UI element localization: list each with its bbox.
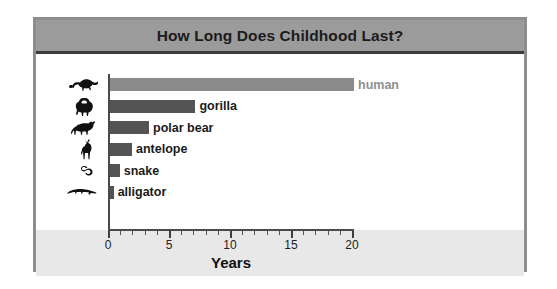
bar-label-human: human: [358, 78, 399, 92]
bar-group: human gorilla polar bear antelope snake …: [110, 74, 518, 203]
tick-12: [254, 231, 255, 235]
tick-16: [303, 231, 304, 235]
tick-4: [157, 231, 158, 235]
tick-19: [340, 231, 341, 235]
polar-bear-icon: [56, 117, 101, 139]
bar-label-gorilla: gorilla: [199, 99, 237, 113]
bar-label-antelope: antelope: [136, 142, 187, 156]
tick-10: [230, 231, 232, 238]
tick-11: [242, 231, 243, 235]
antelope-icon: [56, 139, 101, 161]
animal-icon-column: [56, 74, 101, 203]
tick-7: [193, 231, 194, 235]
tick-label-5: 5: [166, 238, 173, 252]
bar-human: [110, 78, 354, 91]
tick-18: [328, 231, 329, 235]
bar-polar-bear: [110, 121, 149, 134]
tick-6: [181, 231, 182, 235]
chart-title-bar: How Long Does Childhood Last?: [36, 20, 524, 54]
tick-14: [279, 231, 280, 235]
tick-label-0: 0: [105, 238, 112, 252]
tick-label-20: 20: [345, 238, 358, 252]
bar-label-polar-bear: polar bear: [153, 121, 213, 135]
tick-1: [120, 231, 121, 235]
gorilla-icon: [56, 96, 101, 118]
alligator-icon: [56, 182, 101, 204]
bar-label-snake: snake: [124, 164, 159, 178]
plot-area: human gorilla polar bear antelope snake …: [36, 54, 524, 269]
tick-17: [315, 231, 316, 235]
tick-label-15: 15: [284, 238, 297, 252]
tick-5: [169, 231, 171, 238]
bar-gorilla: [110, 100, 195, 113]
page-title: How Long Does Childhood Last?: [157, 27, 404, 45]
human-crawling-icon: [56, 74, 101, 96]
chart-frame: How Long Does Childhood Last?: [33, 17, 527, 272]
tick-20: [352, 231, 354, 238]
snake-icon: [56, 160, 101, 182]
bar-row-human: human: [110, 74, 518, 96]
tick-15: [291, 231, 293, 238]
bar-row-antelope: antelope: [110, 139, 518, 161]
tick-2: [132, 231, 133, 235]
bar-row-alligator: alligator: [110, 182, 518, 204]
tick-label-10: 10: [223, 238, 236, 252]
bar-alligator: [110, 186, 114, 199]
bar-row-gorilla: gorilla: [110, 96, 518, 118]
x-axis-title: Years: [108, 254, 354, 271]
tick-3: [145, 231, 146, 235]
tick-13: [267, 231, 268, 235]
bar-antelope: [110, 143, 132, 156]
tick-9: [218, 231, 219, 235]
bar-label-alligator: alligator: [118, 185, 167, 199]
tick-8: [206, 231, 207, 235]
bar-row-snake: snake: [110, 160, 518, 182]
tick-0: [108, 231, 110, 238]
bar-row-polar-bear: polar bear: [110, 117, 518, 139]
bar-snake: [110, 164, 120, 177]
